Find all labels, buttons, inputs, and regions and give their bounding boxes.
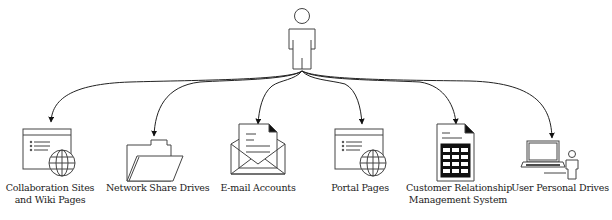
- label-line: Portal Pages: [320, 182, 400, 194]
- node-label-collab: Collaboration Sites and Wiki Pages: [2, 182, 98, 206]
- node-label-email: E-mail Accounts: [212, 182, 304, 194]
- label-line: Management System: [406, 194, 510, 206]
- person-icon: [289, 9, 315, 70]
- label-line: Customer Relationship: [406, 182, 510, 194]
- label-line: Network Share Drives: [106, 182, 202, 194]
- spreadsheet-document-icon: [437, 124, 474, 181]
- browser-globe-icon: [335, 129, 386, 176]
- connector-personal: [302, 71, 552, 138]
- label-line: E-mail Accounts: [212, 182, 304, 194]
- label-line: and Wiki Pages: [2, 194, 98, 206]
- node-label-network: Network Share Drives: [106, 182, 202, 194]
- label-line: User Personal Drives: [508, 182, 612, 194]
- node-label-crm: Customer Relationship Management System: [406, 182, 510, 206]
- envelope-document-icon: [231, 124, 285, 174]
- label-line: Collaboration Sites: [2, 182, 98, 194]
- connectors: [51, 71, 552, 138]
- laptop-user-icon: [521, 141, 578, 179]
- folder-icon: [127, 140, 183, 181]
- node-label-personal: User Personal Drives: [508, 182, 612, 194]
- node-label-portal: Portal Pages: [320, 182, 400, 194]
- browser-globe-icon: [23, 129, 75, 176]
